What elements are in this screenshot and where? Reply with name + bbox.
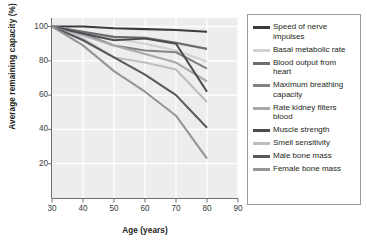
y-tick-label: 20 bbox=[22, 160, 48, 168]
plot-area bbox=[52, 18, 238, 198]
legend-item[interactable]: Male bone mass bbox=[253, 151, 356, 161]
legend-item[interactable]: Smell sensitivity bbox=[253, 138, 356, 148]
legend-color-swatch bbox=[253, 26, 270, 29]
legend-color-swatch bbox=[253, 142, 270, 145]
legend-item[interactable]: Maximum breathing capacity bbox=[253, 80, 356, 99]
chart-legend: Speed of nerve impulsesBasal metabolic r… bbox=[247, 14, 361, 205]
legend-color-swatch bbox=[253, 155, 270, 158]
x-tick-label: 80 bbox=[195, 205, 219, 213]
legend-color-swatch bbox=[253, 129, 270, 132]
legend-item-label: Smell sensitivity bbox=[273, 138, 356, 148]
x-tick-label: 60 bbox=[133, 205, 157, 213]
legend-color-swatch bbox=[253, 49, 270, 52]
legend-item[interactable]: Basal metabolic rate bbox=[253, 45, 356, 55]
legend-color-swatch bbox=[253, 107, 270, 110]
x-tick-label: 30 bbox=[40, 205, 64, 213]
legend-item-label: Blood output from heart bbox=[273, 58, 356, 77]
y-tick-label: 80 bbox=[22, 57, 48, 65]
plot-lines bbox=[52, 18, 238, 198]
x-tick-label: 40 bbox=[71, 205, 95, 213]
legend-item-label: Rate kidney filters blood bbox=[273, 103, 356, 122]
legend-item-label: Speed of nerve impulses bbox=[273, 22, 356, 41]
y-tick-label: 40 bbox=[22, 125, 48, 133]
legend-color-swatch bbox=[253, 62, 270, 65]
legend-item-label: Basal metabolic rate bbox=[273, 45, 356, 55]
x-tick-label: 50 bbox=[102, 205, 126, 213]
legend-item[interactable]: Female bone mass bbox=[253, 164, 356, 174]
legend-item-label: Female bone mass bbox=[273, 164, 356, 174]
y-axis-title: Average remaining capacity (%) bbox=[8, 0, 17, 147]
legend-item[interactable]: Blood output from heart bbox=[253, 58, 356, 77]
x-axis-title: Age (years) bbox=[52, 226, 238, 235]
x-tick-label: 70 bbox=[164, 205, 188, 213]
legend-item-label: Muscle strength bbox=[273, 125, 356, 135]
series-line bbox=[52, 27, 207, 159]
y-tick-label: 100 bbox=[22, 23, 48, 31]
x-tick-label: 90 bbox=[226, 205, 250, 213]
x-axis-tick-labels: 30405060708090 bbox=[52, 205, 272, 219]
legend-color-swatch bbox=[253, 84, 270, 87]
chart-figure: Average remaining capacity (%) 204060801… bbox=[0, 0, 367, 250]
y-tick-label: 60 bbox=[22, 91, 48, 99]
legend-color-swatch bbox=[253, 168, 270, 171]
legend-item[interactable]: Muscle strength bbox=[253, 125, 356, 135]
legend-item-label: Male bone mass bbox=[273, 151, 356, 161]
legend-item[interactable]: Speed of nerve impulses bbox=[253, 22, 356, 41]
legend-item[interactable]: Rate kidney filters blood bbox=[253, 103, 356, 122]
legend-item-label: Maximum breathing capacity bbox=[273, 80, 356, 99]
